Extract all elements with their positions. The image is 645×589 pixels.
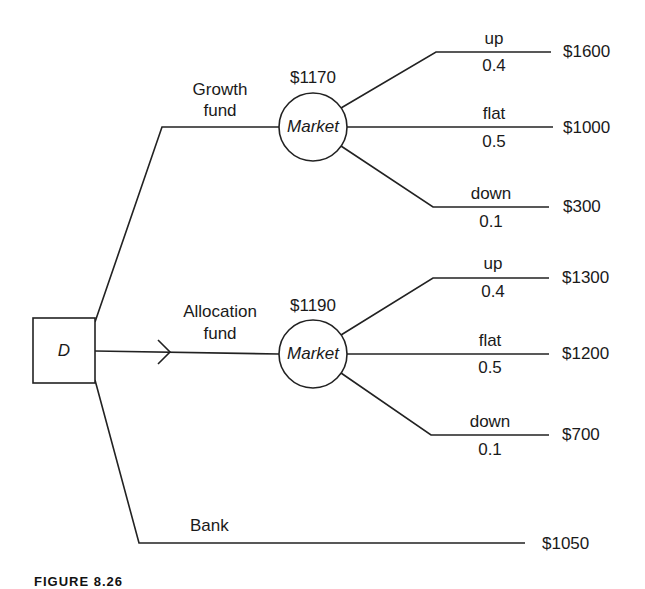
- outcome-growth-up-payoff: $1600: [563, 42, 610, 61]
- edge-allocation-down: [341, 373, 549, 435]
- outcome-growth-down-payoff: $300: [563, 197, 601, 216]
- outcome-allocation-up-payoff: $1300: [562, 268, 609, 287]
- outcome-allocation-down-state: down: [470, 412, 511, 431]
- outcome-allocation-flat-state: flat: [479, 331, 502, 350]
- edge-growth-fund: [95, 127, 279, 322]
- edge-allocation-up: [341, 278, 549, 335]
- expected-value-growth: $1170: [290, 68, 336, 87]
- figure-caption: FIGURE 8.26: [34, 574, 123, 589]
- outcome-allocation-down-payoff: $700: [562, 425, 600, 444]
- branch-label-growth-line1: Growth: [193, 80, 248, 99]
- chance-node-growth-label: Market: [287, 117, 339, 136]
- edge-allocation-fund: [95, 351, 279, 354]
- branch-label-allocation-line2: fund: [203, 324, 236, 343]
- outcome-growth-up-prob: 0.4: [482, 56, 506, 75]
- chance-node-allocation-label: Market: [287, 344, 339, 363]
- outcome-growth-flat-state: flat: [483, 104, 506, 123]
- outcome-growth-flat-payoff: $1000: [563, 118, 610, 137]
- outcome-allocation-flat-prob: 0.5: [478, 358, 502, 377]
- outcome-allocation-up-prob: 0.4: [481, 282, 505, 301]
- outcome-growth-flat-prob: 0.5: [482, 132, 506, 151]
- outcome-bank-payoff: $1050: [542, 534, 589, 553]
- expected-value-allocation: $1190: [290, 296, 336, 315]
- outcome-allocation-up-state: up: [484, 254, 503, 273]
- decision-node-label: D: [58, 341, 70, 360]
- edge-bank: [95, 380, 525, 543]
- outcome-allocation-down-prob: 0.1: [478, 440, 502, 459]
- branch-label-allocation-line1: Allocation: [183, 302, 257, 321]
- outcome-growth-down-prob: 0.1: [479, 212, 503, 231]
- branch-label-bank: Bank: [190, 516, 229, 535]
- edge-growth-down: [341, 146, 549, 207]
- edge-growth-up: [341, 52, 551, 108]
- outcome-allocation-flat-payoff: $1200: [562, 344, 609, 363]
- outcome-growth-down-state: down: [471, 184, 512, 203]
- outcome-growth-up-state: up: [485, 29, 504, 48]
- branch-label-growth-line2: fund: [203, 101, 236, 120]
